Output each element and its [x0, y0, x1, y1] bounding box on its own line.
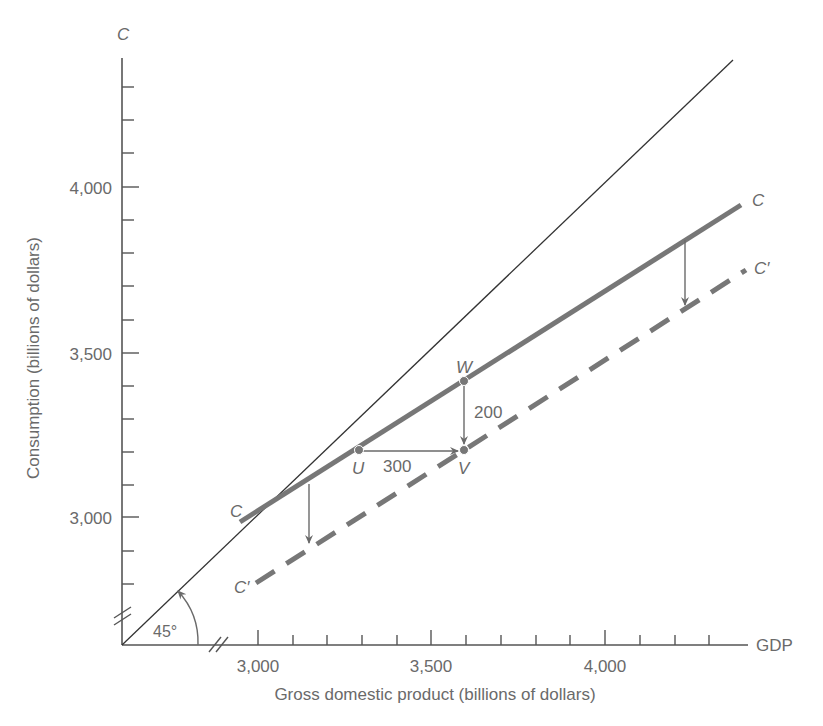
c-prime-label-right: C′ [754, 259, 770, 278]
angle-arc-icon [178, 591, 198, 645]
x-tick-label-3000: 3,000 [237, 657, 280, 676]
c-label-right: C [752, 191, 765, 210]
consumption-line-c-prime [256, 270, 746, 583]
c-prime-label-left: C′ [234, 578, 250, 597]
forty-five-degree-line [122, 60, 733, 645]
y-tick-label-3500: 3,500 [69, 345, 112, 364]
point-v [460, 446, 469, 455]
y-axis-symbol: C [117, 25, 130, 44]
point-w [460, 377, 469, 386]
x-tick-label-3500: 3,500 [410, 657, 453, 676]
y-axis-title: Consumption (billions of dollars) [24, 237, 43, 479]
x-ticks [258, 630, 709, 645]
consumption-line-c [240, 205, 741, 522]
x-axis-title: Gross domestic product (billions of doll… [274, 685, 595, 704]
point-w-label: W [456, 358, 474, 377]
y-ticks [122, 87, 139, 584]
point-v-label: V [458, 459, 471, 478]
y-tick-label-3000: 3,000 [69, 509, 112, 528]
x-tick-label-4000: 4,000 [584, 657, 627, 676]
delta-y-label: 200 [474, 403, 502, 422]
delta-x-label: 300 [383, 457, 411, 476]
point-u-label: U [352, 459, 365, 478]
y-tick-label-4000: 4,000 [69, 179, 112, 198]
point-u [355, 446, 364, 455]
c-label-left: C [230, 502, 243, 521]
chart-canvas: C GDP 4,000 3,500 3,000 3,000 3,500 4,00… [0, 0, 823, 726]
x-axis-symbol: GDP [756, 636, 793, 655]
angle-label: 45° [153, 623, 177, 640]
